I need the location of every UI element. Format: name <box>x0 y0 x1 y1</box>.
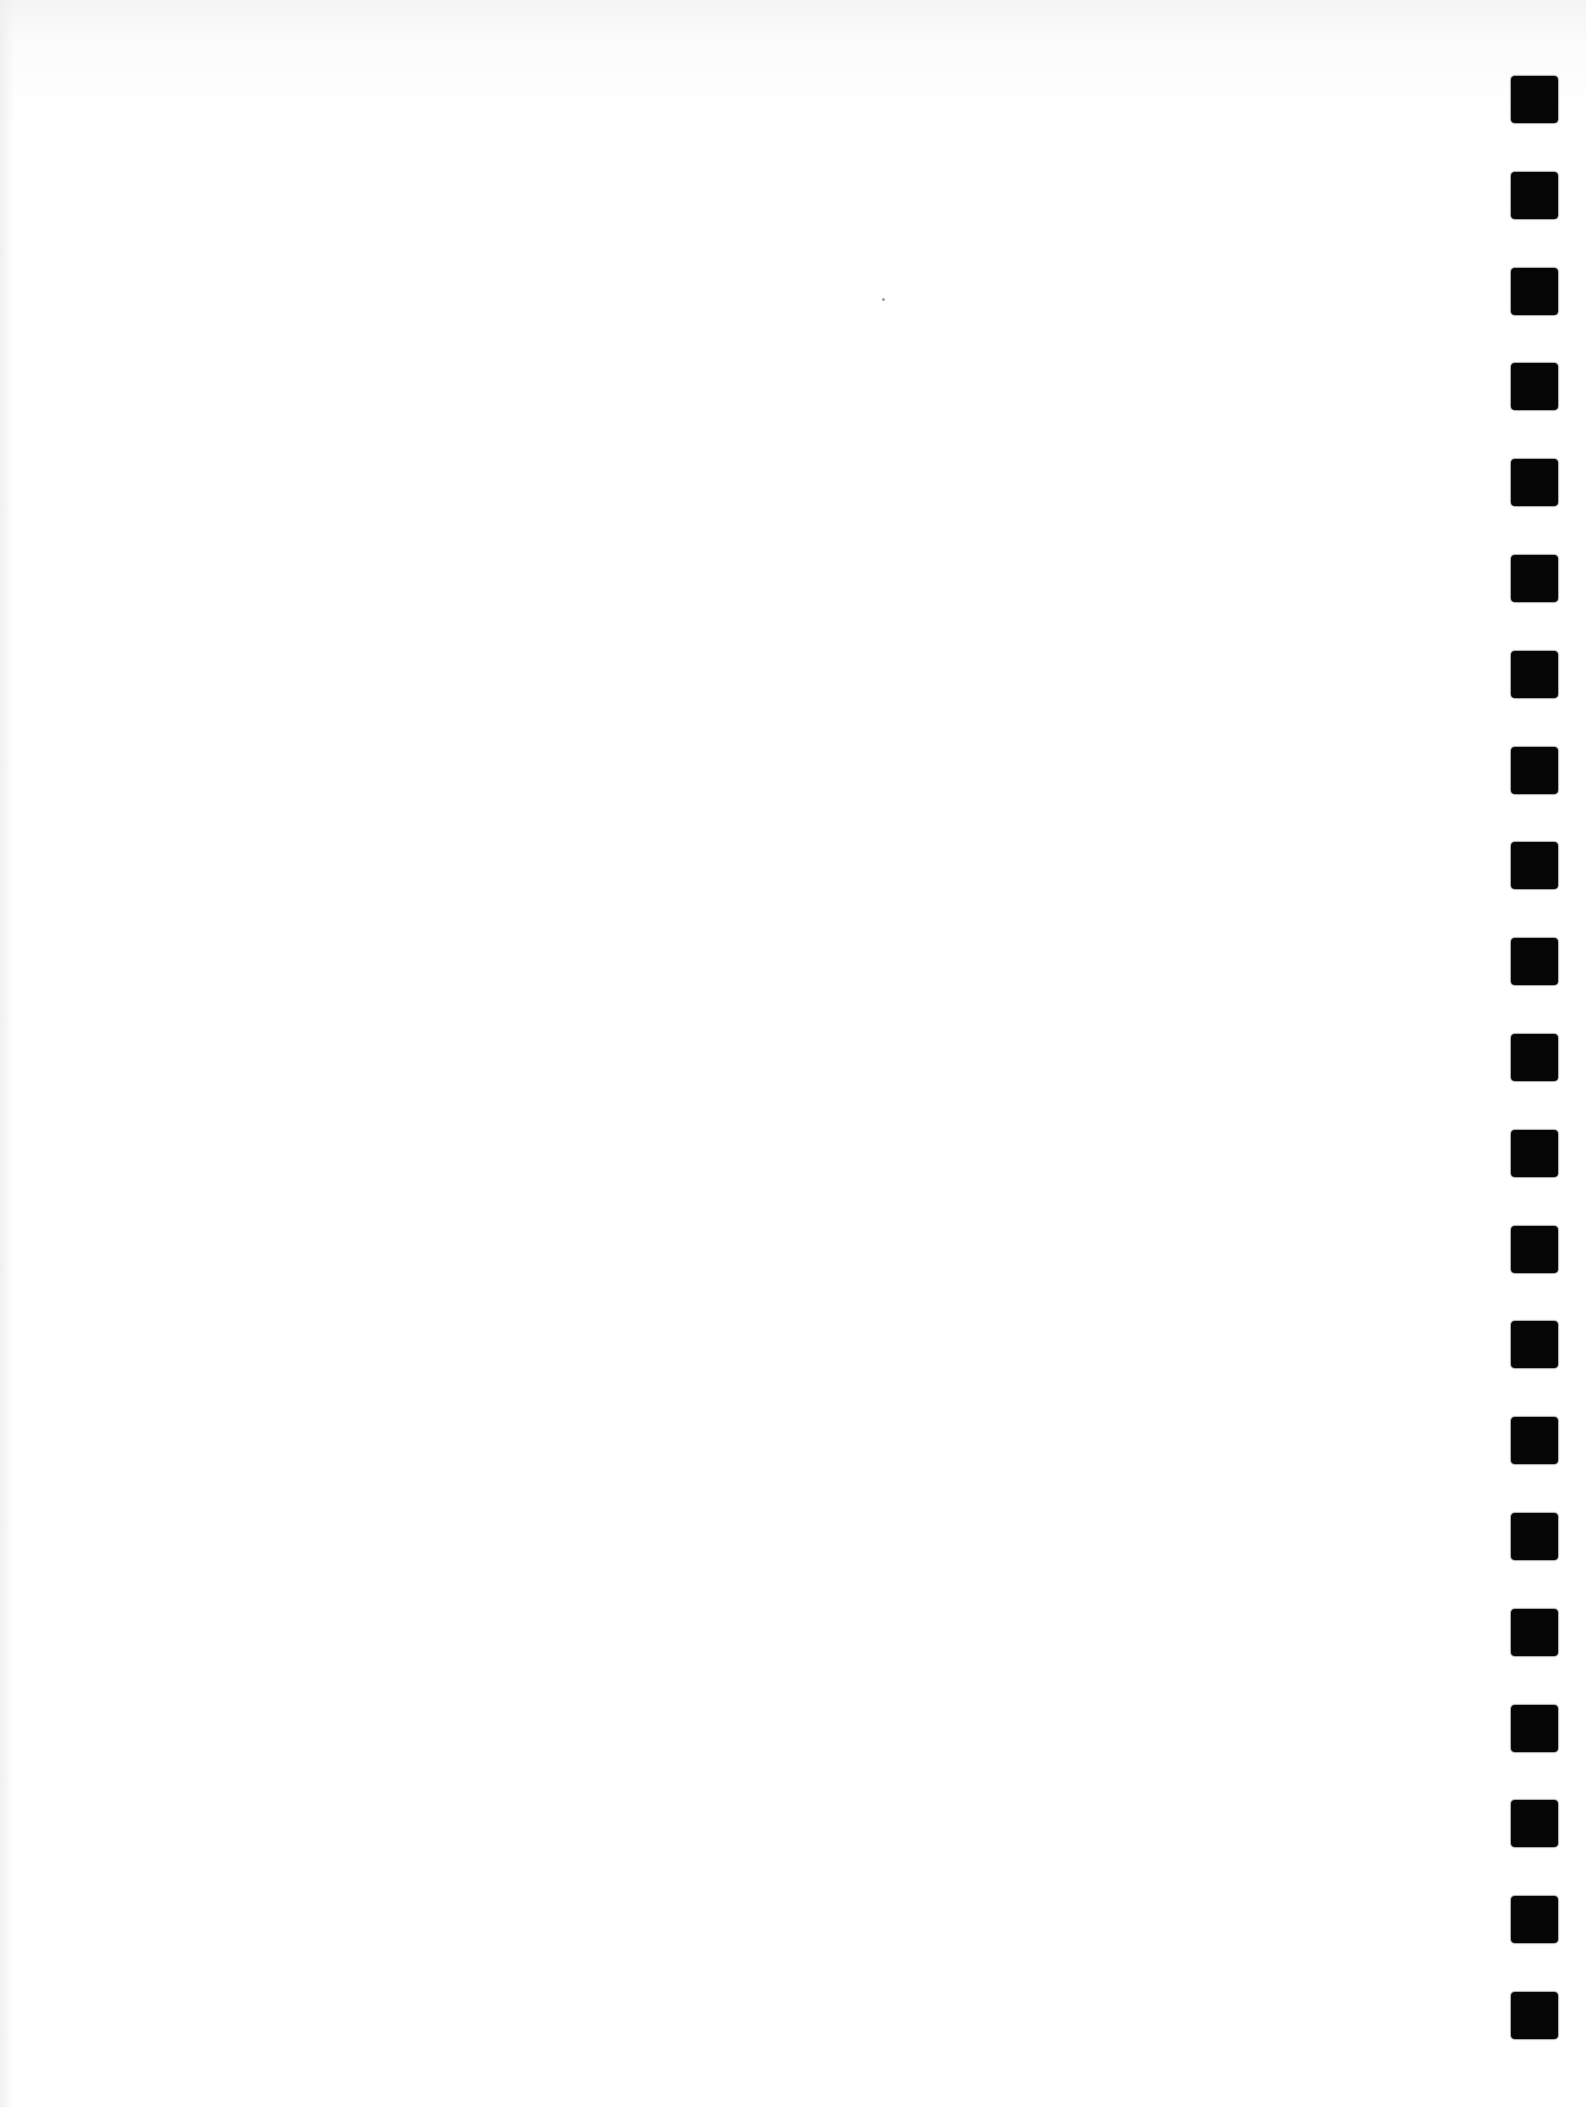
punch-hole <box>1511 1130 1558 1177</box>
punch-hole <box>1511 1513 1558 1560</box>
punch-hole <box>1511 938 1558 985</box>
punch-hole <box>1511 842 1558 889</box>
dust-speck <box>882 298 885 301</box>
punch-hole <box>1511 363 1558 410</box>
punch-hole <box>1511 1992 1558 2039</box>
punch-hole <box>1511 1417 1558 1464</box>
punch-hole <box>1511 651 1558 698</box>
punch-hole <box>1511 76 1558 123</box>
punch-hole <box>1511 1226 1558 1273</box>
blank-scanned-page <box>0 0 1586 2107</box>
page-left-edge-shadow <box>0 0 14 2107</box>
binding-punch-holes <box>1511 0 1559 2107</box>
punch-hole <box>1511 1705 1558 1752</box>
punch-hole <box>1511 1321 1558 1368</box>
punch-hole <box>1511 459 1558 506</box>
punch-hole <box>1511 1800 1558 1847</box>
punch-hole <box>1511 1609 1558 1656</box>
punch-hole <box>1511 1896 1558 1943</box>
punch-hole <box>1511 747 1558 794</box>
punch-hole <box>1511 1034 1558 1081</box>
punch-hole <box>1511 172 1558 219</box>
punch-hole <box>1511 268 1558 315</box>
punch-hole <box>1511 555 1558 602</box>
